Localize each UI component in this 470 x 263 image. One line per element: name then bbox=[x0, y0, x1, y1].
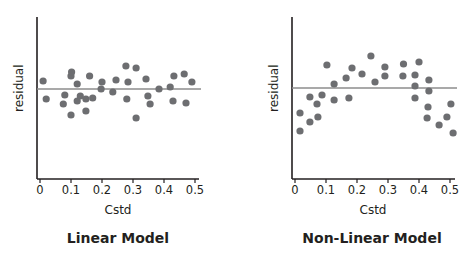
left-data-point bbox=[123, 95, 130, 102]
left-data-point bbox=[167, 83, 174, 90]
left-data-point bbox=[133, 64, 140, 71]
right-data-point bbox=[318, 91, 325, 98]
left-data-point bbox=[40, 77, 47, 84]
right-data-point bbox=[358, 70, 365, 77]
left-data-point bbox=[67, 111, 74, 118]
right-data-point bbox=[400, 60, 407, 67]
left-data-point bbox=[43, 95, 50, 102]
right-data-point bbox=[314, 113, 321, 120]
right-data-point bbox=[296, 127, 303, 134]
right-data-point bbox=[381, 63, 388, 70]
right-data-point bbox=[381, 72, 388, 79]
left-x-tick: 0.3 bbox=[124, 183, 142, 197]
left-x-tick: 0.4 bbox=[155, 183, 173, 197]
right-data-point bbox=[415, 58, 422, 65]
left-data-point bbox=[74, 80, 81, 87]
scatter-plots bbox=[0, 0, 470, 263]
left-data-point bbox=[155, 85, 162, 92]
right-y-axis-label: residual bbox=[267, 64, 281, 112]
right-data-point bbox=[348, 64, 355, 71]
right-data-point bbox=[411, 94, 418, 101]
left-data-point bbox=[89, 94, 96, 101]
right-x-tick: 0.1 bbox=[317, 183, 335, 197]
right-data-point bbox=[371, 78, 378, 85]
left-x-tick: 0.1 bbox=[62, 183, 80, 197]
left-data-point bbox=[68, 68, 75, 75]
right-data-point bbox=[443, 113, 450, 120]
left-data-point bbox=[109, 88, 116, 95]
left-x-axis-label: Cstd bbox=[58, 203, 178, 217]
right-data-point bbox=[424, 114, 431, 121]
left-data-point bbox=[82, 107, 89, 114]
left-x-tick: 0.5 bbox=[186, 183, 204, 197]
left-data-point bbox=[60, 100, 67, 107]
right-data-point bbox=[425, 76, 432, 83]
right-data-point bbox=[345, 94, 352, 101]
left-data-point bbox=[133, 114, 140, 121]
right-data-point bbox=[313, 100, 320, 107]
left-data-point bbox=[182, 99, 189, 106]
right-x-tick: 0 bbox=[291, 183, 298, 197]
left-y-axis-label: residual bbox=[12, 64, 26, 112]
left-data-point bbox=[61, 91, 68, 98]
left-data-point bbox=[98, 85, 105, 92]
right-data-point bbox=[436, 121, 443, 128]
left-data-point bbox=[181, 70, 188, 77]
right-data-point bbox=[424, 103, 431, 110]
right-x-tick: 0.3 bbox=[379, 183, 397, 197]
right-data-point bbox=[399, 72, 406, 79]
right-data-point bbox=[447, 100, 454, 107]
left-data-point bbox=[122, 62, 129, 69]
right-x-axis-label: Cstd bbox=[313, 203, 433, 217]
right-data-point bbox=[450, 129, 457, 136]
left-x-tick: 0.2 bbox=[93, 183, 111, 197]
left-data-point bbox=[86, 72, 93, 79]
left-data-point bbox=[82, 95, 89, 102]
right-data-point bbox=[411, 71, 418, 78]
left-data-point bbox=[170, 72, 177, 79]
right-data-point bbox=[323, 61, 330, 68]
right-x-tick: 0.5 bbox=[441, 183, 459, 197]
right-data-point bbox=[367, 52, 374, 59]
left-x-tick: 0 bbox=[36, 183, 43, 197]
right-data-point bbox=[331, 96, 338, 103]
right-data-point bbox=[296, 109, 303, 116]
right-x-tick: 0.2 bbox=[348, 183, 366, 197]
figure: residual Cstd Linear Model 0 0.1 0.2 0.3… bbox=[0, 0, 470, 263]
left-data-point bbox=[124, 78, 131, 85]
right-data-point bbox=[411, 82, 418, 89]
right-data-point bbox=[331, 80, 338, 87]
right-data-point bbox=[306, 118, 313, 125]
right-data-point bbox=[306, 93, 313, 100]
left-data-point bbox=[142, 75, 149, 82]
right-x-tick: 0.4 bbox=[410, 183, 428, 197]
left-data-point bbox=[112, 76, 119, 83]
left-data-point bbox=[147, 100, 154, 107]
left-data-point bbox=[144, 92, 151, 99]
right-data-point bbox=[425, 87, 432, 94]
left-data-point bbox=[98, 78, 105, 85]
left-data-point bbox=[188, 78, 195, 85]
right-panel-title: Non-Linear Model bbox=[262, 230, 470, 246]
left-data-point bbox=[169, 97, 176, 104]
right-data-point bbox=[343, 74, 350, 81]
left-panel-title: Linear Model bbox=[8, 230, 228, 246]
